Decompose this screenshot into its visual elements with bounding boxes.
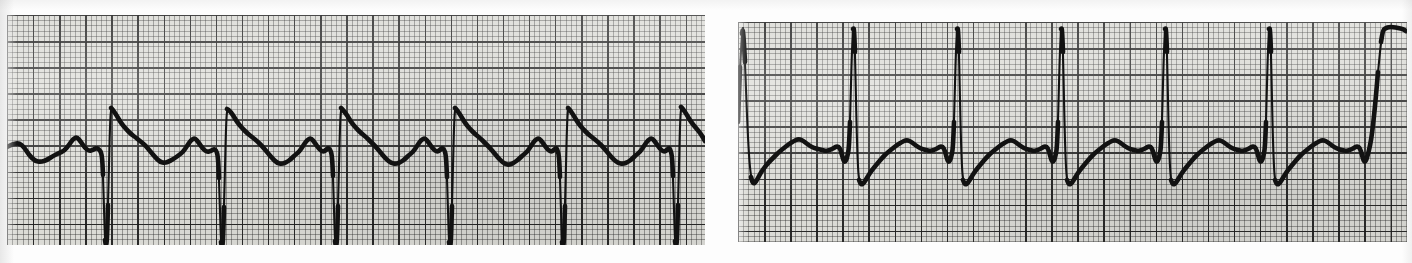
ecg-page <box>0 0 1412 263</box>
ecg-trace-left <box>7 15 705 245</box>
ecg-trace-right <box>738 22 1407 242</box>
ecg-strip-right <box>738 22 1407 242</box>
ecg-strip-left <box>7 15 705 245</box>
